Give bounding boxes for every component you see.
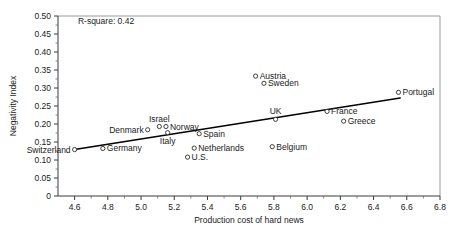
data-point-marker — [73, 147, 77, 151]
data-point-label: Italy — [160, 136, 176, 146]
data-point-label: UK — [270, 106, 282, 116]
data-point-label: Sweden — [268, 78, 299, 88]
x-tick-label: 5.8 — [268, 202, 280, 212]
data-point-marker — [197, 132, 201, 136]
data-point-label: Belgium — [276, 142, 307, 152]
data-point-label: Switzerland — [27, 145, 71, 155]
x-tick-label: 5.0 — [135, 202, 147, 212]
data-point-label: Norway — [170, 122, 200, 132]
y-tick-label: 0.25 — [34, 101, 51, 111]
data-point-marker — [273, 117, 277, 121]
data-point-label: France — [331, 106, 358, 116]
data-point-marker — [192, 146, 196, 150]
data-point-marker — [157, 124, 161, 128]
data-point-label: Greece — [348, 116, 376, 126]
y-tick-label: 0.40 — [34, 47, 51, 57]
x-tick-label: 4.6 — [69, 202, 81, 212]
data-point-marker — [342, 119, 346, 123]
y-tick-label: 0.05 — [34, 173, 51, 183]
y-tick-label: 0.30 — [34, 83, 51, 93]
data-point-marker — [101, 146, 105, 150]
data-point-marker — [185, 155, 189, 159]
x-tick-label: 5.4 — [202, 202, 214, 212]
data-point-marker — [146, 128, 150, 132]
data-point-label: Denmark — [109, 125, 144, 135]
chart-canvas: 00.050.100.150.200.250.300.350.400.450.5… — [0, 0, 460, 240]
data-point-marker — [166, 131, 170, 135]
data-point-label: U.S. — [192, 152, 209, 162]
data-point-label: Germany — [107, 143, 143, 153]
data-point-marker — [164, 124, 168, 128]
data-point-label: Spain — [203, 129, 225, 139]
plot-frame — [58, 16, 440, 196]
data-point-marker — [325, 109, 329, 113]
x-tick-label: 4.8 — [102, 202, 114, 212]
x-tick-label: 6.0 — [301, 202, 313, 212]
y-tick-label: 0.10 — [34, 155, 51, 165]
x-tick-label: 6.4 — [368, 202, 380, 212]
x-tick-label: 6.2 — [334, 202, 346, 212]
data-point-label: Portugal — [402, 87, 434, 97]
x-tick-label: 5.2 — [168, 202, 180, 212]
scatter-chart: 00.050.100.150.200.250.300.350.400.450.5… — [0, 0, 460, 240]
x-tick-label: 5.6 — [235, 202, 247, 212]
data-point-marker — [262, 81, 266, 85]
y-tick-label: 0 — [46, 191, 51, 201]
x-tick-label: 6.6 — [401, 202, 413, 212]
r-square-annotation: R-square: 0.42 — [78, 16, 134, 26]
data-point-label: Israel — [149, 114, 170, 124]
y-axis-title: Negativity Index — [8, 75, 18, 136]
x-tick-label: 6.8 — [434, 202, 446, 212]
data-point-marker — [396, 90, 400, 94]
y-tick-label: 0.20 — [34, 119, 51, 129]
y-tick-label: 0.50 — [34, 11, 51, 21]
data-point-marker — [270, 145, 274, 149]
y-tick-label: 0.35 — [34, 65, 51, 75]
y-tick-label: 0.45 — [34, 29, 51, 39]
data-point-marker — [254, 74, 258, 78]
x-axis-title: Production cost of hard news — [194, 215, 304, 225]
